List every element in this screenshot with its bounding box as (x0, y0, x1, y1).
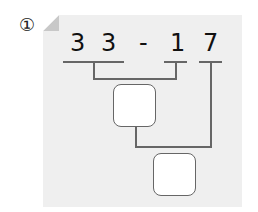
bracket2-left-leg (135, 127, 137, 147)
answer-box-partial[interactable] (113, 84, 156, 127)
answer-box-final[interactable] (153, 153, 196, 196)
digit-tens-subtrahend: 1 (170, 29, 185, 57)
digit-ones-subtrahend: 7 (203, 29, 218, 57)
bracket2-bar (135, 146, 212, 148)
card-corner-cut (43, 15, 59, 31)
bracket-right-leg (175, 61, 177, 79)
bracket-bar (93, 78, 177, 80)
minus-sign: - (139, 29, 148, 57)
digit-tens-minuend: 3 (70, 29, 85, 57)
digit-ones-minuend: 3 (101, 29, 116, 57)
problem-number-marker: ① (18, 16, 36, 34)
bracket2-right-leg (210, 61, 212, 147)
bracket-left-leg (93, 61, 95, 79)
